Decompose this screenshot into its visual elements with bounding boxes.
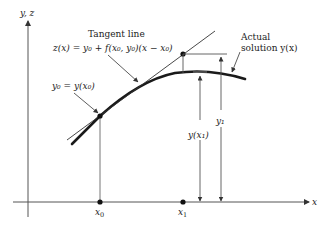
initial-point-dot bbox=[97, 113, 102, 118]
initial-condition-pointer bbox=[74, 93, 98, 113]
x1-dot bbox=[180, 199, 185, 204]
x-axis-label: x bbox=[312, 197, 317, 207]
x1-label: x1 bbox=[178, 207, 187, 219]
actual-solution-label-1: Actual bbox=[240, 32, 270, 42]
x0-dot bbox=[97, 199, 102, 204]
tangent-pointer bbox=[108, 55, 138, 82]
x0-label: x0 bbox=[95, 207, 104, 219]
actual-solution-pointer bbox=[232, 52, 240, 72]
tangent-equation: z(x) = y₀ + f(x₀, y₀)(x − x₀) bbox=[52, 43, 173, 53]
tangent-title: Tangent line bbox=[88, 29, 145, 39]
y1-label: y₁ bbox=[215, 116, 225, 126]
actual-solution-label-2: solution y(x) bbox=[241, 43, 297, 53]
actual-solution-curve bbox=[72, 71, 245, 144]
y-axis-label: y, z bbox=[19, 8, 35, 18]
euler-diagram: y, z x y(x₁) y₁ x0 x1 Tangent line z(x) … bbox=[0, 0, 332, 229]
y-of-x1-label: y(x₁) bbox=[187, 130, 209, 140]
initial-condition-label: y₀ = y(x₀) bbox=[51, 81, 95, 91]
